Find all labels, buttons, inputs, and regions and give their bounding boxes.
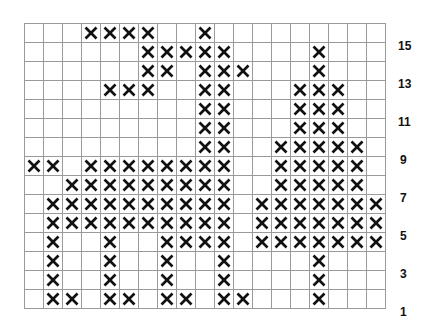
x-mark-icon [141, 26, 155, 40]
stitch-cell-empty [63, 157, 82, 176]
stitch-cell-empty [367, 119, 386, 138]
stitch-cell-marked [215, 271, 234, 290]
x-mark-icon [217, 102, 231, 116]
x-mark-icon [27, 159, 41, 173]
x-mark-icon [122, 26, 136, 40]
stitch-cell-empty [177, 271, 196, 290]
stitch-cell-empty [234, 24, 253, 43]
x-mark-icon [198, 83, 212, 97]
stitch-cell-empty [25, 233, 44, 252]
stitch-cell-empty [329, 252, 348, 271]
stitch-cell-marked [310, 119, 329, 138]
stitch-cell-empty [291, 290, 310, 309]
stitch-cell-empty [329, 62, 348, 81]
grid-row-8 [25, 157, 386, 176]
stitch-cell-empty [367, 252, 386, 271]
stitch-cell-empty [63, 24, 82, 43]
stitch-cell-marked [272, 176, 291, 195]
stitch-cell-marked [329, 81, 348, 100]
stitch-cell-marked [348, 214, 367, 233]
stitch-cell-marked [82, 24, 101, 43]
grid-row-14 [25, 43, 386, 62]
stitch-cell-empty [101, 119, 120, 138]
stitch-cell-empty [44, 138, 63, 157]
stitch-cell-marked [82, 214, 101, 233]
stitch-cell-marked [367, 214, 386, 233]
stitch-cell-empty [25, 100, 44, 119]
stitch-cell-marked [329, 119, 348, 138]
stitch-cell-marked [310, 62, 329, 81]
stitch-cell-marked [272, 214, 291, 233]
stitch-cell-marked [120, 176, 139, 195]
stitch-cell-empty [291, 271, 310, 290]
stitch-cell-marked [82, 176, 101, 195]
x-mark-icon [312, 216, 326, 230]
stitch-cell-empty [367, 100, 386, 119]
stitch-cell-marked [177, 195, 196, 214]
stitch-cell-empty [291, 62, 310, 81]
x-mark-icon [122, 216, 136, 230]
grid-row-2 [25, 271, 386, 290]
grid-row-7 [25, 176, 386, 195]
stitch-cell-marked [215, 195, 234, 214]
stitch-cell-empty [367, 176, 386, 195]
x-mark-icon [369, 235, 383, 249]
stitch-cell-marked [234, 290, 253, 309]
stitch-cell-empty [25, 290, 44, 309]
row-label-11: 11 [398, 115, 428, 129]
stitch-cell-empty [82, 43, 101, 62]
stitch-cell-empty [253, 81, 272, 100]
x-mark-icon [369, 197, 383, 211]
x-mark-icon [312, 292, 326, 306]
stitch-cell-marked [215, 214, 234, 233]
stitch-cell-empty [44, 24, 63, 43]
stitch-cell-empty [348, 271, 367, 290]
stitch-cell-empty [196, 252, 215, 271]
stitch-cell-empty [234, 157, 253, 176]
stitch-cell-empty [44, 62, 63, 81]
stitch-cell-marked [329, 176, 348, 195]
stitch-cell-marked [196, 24, 215, 43]
stitch-cell-empty [291, 43, 310, 62]
stitch-cell-empty [348, 252, 367, 271]
stitch-cell-marked [215, 119, 234, 138]
stitch-cell-empty [120, 100, 139, 119]
x-mark-icon [103, 83, 117, 97]
grid-row-5 [25, 214, 386, 233]
row-label-1: 1 [400, 305, 430, 319]
x-mark-icon [65, 197, 79, 211]
x-mark-icon [312, 273, 326, 287]
x-mark-icon [65, 292, 79, 306]
stitch-cell-marked [310, 100, 329, 119]
stitch-cell-marked [291, 195, 310, 214]
x-mark-icon [160, 64, 174, 78]
stitch-cell-marked [310, 43, 329, 62]
x-mark-icon [122, 159, 136, 173]
x-mark-icon [84, 159, 98, 173]
stitch-cell-marked [310, 271, 329, 290]
stitch-cell-empty [253, 252, 272, 271]
x-mark-icon [293, 140, 307, 154]
stitch-cell-marked [177, 290, 196, 309]
stitch-cell-empty [82, 100, 101, 119]
stitch-cell-empty [272, 119, 291, 138]
x-mark-icon [198, 102, 212, 116]
stitch-cell-empty [253, 119, 272, 138]
stitch-cell-marked [158, 252, 177, 271]
stitch-cell-empty [234, 43, 253, 62]
stitch-cell-empty [196, 290, 215, 309]
stitch-cell-marked [101, 233, 120, 252]
x-mark-icon [103, 235, 117, 249]
stitch-cell-empty [329, 290, 348, 309]
stitch-cell-empty [158, 100, 177, 119]
stitch-cell-empty [120, 62, 139, 81]
x-mark-icon [141, 178, 155, 192]
stitch-cell-marked [120, 290, 139, 309]
x-mark-icon [236, 64, 250, 78]
stitch-cell-marked [63, 290, 82, 309]
x-mark-icon [350, 178, 364, 192]
x-mark-icon [312, 254, 326, 268]
x-mark-icon [293, 102, 307, 116]
stitch-cell-empty [25, 138, 44, 157]
stitch-cell-marked [101, 252, 120, 271]
